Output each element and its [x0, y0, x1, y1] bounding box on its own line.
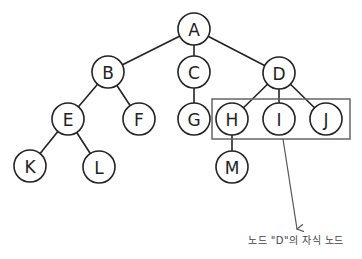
node-K: K — [14, 150, 46, 182]
node-L: L — [83, 151, 115, 183]
node-label: M — [225, 158, 240, 178]
node-label: F — [134, 110, 144, 130]
node-label: H — [226, 110, 239, 130]
node-label: C — [188, 63, 200, 83]
node-I: I — [263, 103, 295, 135]
node-G: G — [178, 103, 210, 135]
node-B: B — [92, 56, 124, 88]
node-C: C — [178, 56, 210, 88]
node-H: H — [216, 103, 248, 135]
node-label: A — [188, 20, 200, 40]
node-A: A — [178, 13, 210, 45]
node-label: I — [276, 110, 281, 130]
annotation-arrow — [283, 139, 297, 229]
node-label: G — [187, 110, 200, 130]
node-F: F — [123, 103, 155, 135]
node-label: K — [24, 157, 36, 177]
node-label: J — [322, 110, 328, 130]
node-label: D — [272, 64, 285, 84]
node-J: J — [310, 103, 342, 135]
node-E: E — [52, 103, 84, 135]
node-label: B — [102, 63, 114, 83]
tree-diagram: ABCDEFGHIJKLM — [0, 0, 362, 259]
node-label: L — [94, 158, 104, 178]
tree-edges — [30, 29, 326, 167]
tree-nodes: ABCDEFGHIJKLM — [14, 13, 342, 183]
node-label: E — [63, 110, 74, 130]
node-M: M — [216, 151, 248, 183]
node-D: D — [263, 57, 295, 89]
annotation-caption: 노드 "D"의 자식 노드 — [248, 232, 344, 247]
